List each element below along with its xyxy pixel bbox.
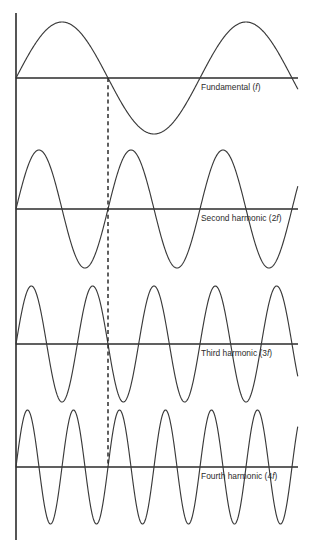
waveform-label-group: Fundamental (f)Second harmonic (2f)Third… xyxy=(201,82,282,481)
waveform-label-3: Third harmonic (3f) xyxy=(201,348,272,358)
waveform-group xyxy=(16,22,298,524)
harmonics-figure: Fundamental (f)Second harmonic (2f)Third… xyxy=(0,0,309,551)
waveform-label-4: Fourth harmonic (4f) xyxy=(201,471,277,481)
baseline-group xyxy=(16,78,298,467)
waveform-label-1: Fundamental (f) xyxy=(201,82,261,92)
harmonics-plot: Fundamental (f)Second harmonic (2f)Third… xyxy=(0,0,309,551)
waveform-label-2: Second harmonic (2f) xyxy=(201,213,282,223)
